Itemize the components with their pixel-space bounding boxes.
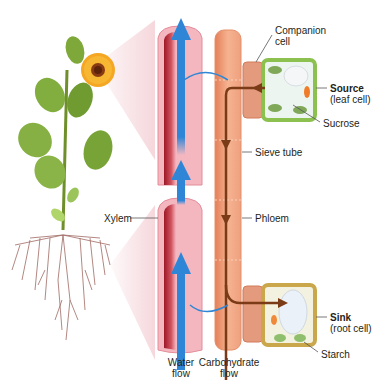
sieve-tube-label: Sieve tube xyxy=(255,147,302,158)
source-label: Source (leaf cell) xyxy=(330,83,371,105)
sunflower-plant-icon xyxy=(11,34,117,230)
companion-cell-lower xyxy=(243,286,263,342)
sink-subtitle: (root cell) xyxy=(330,323,372,334)
sucrose-label: Sucrose xyxy=(323,118,360,129)
source-subtitle: (leaf cell) xyxy=(330,94,371,105)
source-title: Source xyxy=(330,83,371,94)
phloem-label: Phloem xyxy=(255,213,289,224)
companion-cell-label: Companion cell xyxy=(275,25,326,47)
sink-label: Sink (root cell) xyxy=(330,312,372,334)
root-system-icon xyxy=(12,235,110,340)
companion-cell-label-line1: Companion xyxy=(275,25,326,36)
carbohydrate-flow-label: Carbohydrate flow xyxy=(196,357,262,379)
xylem-label: Xylem xyxy=(104,213,132,224)
magnification-cone-bottom xyxy=(110,205,155,360)
source-leaf-cell xyxy=(263,60,315,120)
carb-flow-line1: Carbohydrate xyxy=(196,357,262,368)
sink-root-cell xyxy=(263,285,315,345)
diagram-canvas xyxy=(0,0,385,384)
sink-title: Sink xyxy=(330,312,372,323)
companion-cell-label-line2: cell xyxy=(275,36,326,47)
sunflower-head xyxy=(81,53,115,87)
carb-flow-line2: flow xyxy=(196,368,262,379)
starch-label: Starch xyxy=(321,349,350,360)
